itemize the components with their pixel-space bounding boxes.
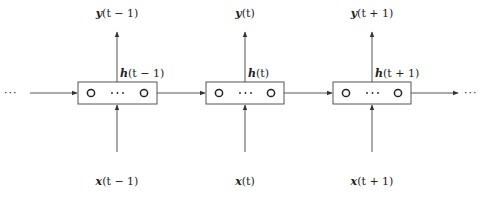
hidden-state-label-2: h(t) — [248, 68, 269, 79]
rnn-cell-2 — [206, 32, 284, 152]
rnn-unrolled-diagram: ··· ··· y(t − 1) y(t) y(t + 1) h(t − 1) … — [0, 0, 486, 198]
rnn-cell-3 — [333, 32, 411, 152]
output-label-1: y(t − 1) — [96, 8, 139, 19]
input-label-2: x(t) — [235, 176, 255, 187]
left-ellipsis: ··· — [4, 87, 18, 98]
input-label-3: x(t + 1) — [351, 176, 394, 187]
hidden-state-label-3: h(t + 1) — [375, 68, 419, 79]
right-ellipsis: ··· — [464, 87, 478, 98]
rnn-cell-1 — [78, 32, 157, 152]
input-label-1: x(t − 1) — [96, 176, 139, 187]
diagram-graphics — [0, 0, 486, 198]
output-label-2: y(t) — [235, 8, 254, 19]
output-label-3: y(t + 1) — [351, 8, 394, 19]
hidden-state-label-1: h(t − 1) — [120, 68, 164, 79]
